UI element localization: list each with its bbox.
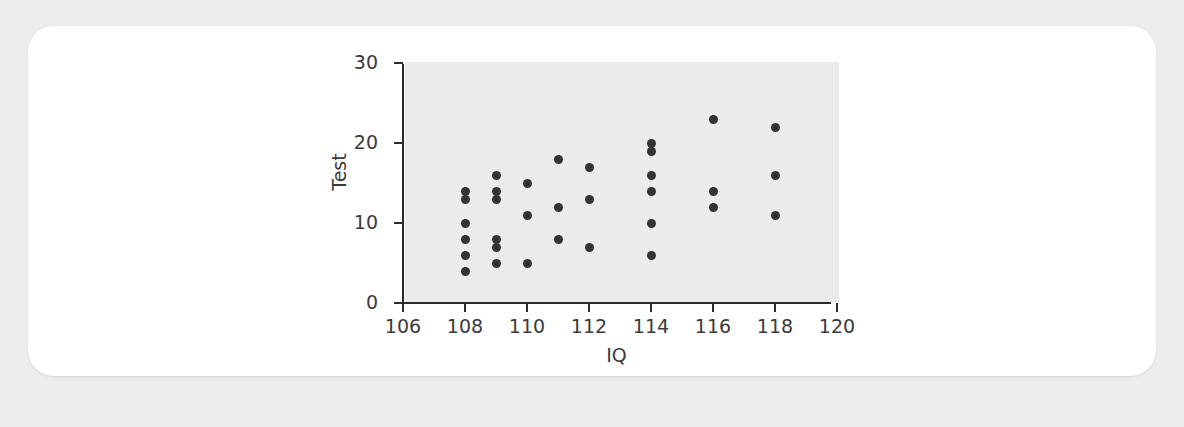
chart-card: 0102030 106108110112114116118120 Test IQ xyxy=(28,26,1156,376)
data-point xyxy=(492,243,501,252)
data-point xyxy=(461,251,470,260)
data-point xyxy=(461,235,470,244)
x-tick-label: 110 xyxy=(497,317,557,336)
page-background: 0102030 106108110112114116118120 Test IQ xyxy=(0,0,1184,427)
data-point xyxy=(554,203,563,212)
data-point xyxy=(492,259,501,268)
plot-panel xyxy=(405,62,839,302)
x-tick-mark xyxy=(650,303,652,312)
data-point xyxy=(523,259,532,268)
data-point xyxy=(709,203,718,212)
data-point xyxy=(585,195,594,204)
x-tick-label: 118 xyxy=(745,317,805,336)
data-point xyxy=(523,211,532,220)
y-tick-label: 10 xyxy=(338,213,378,232)
data-point xyxy=(585,243,594,252)
data-point xyxy=(523,179,532,188)
data-point xyxy=(647,147,656,156)
data-point xyxy=(647,251,656,260)
x-tick-label: 120 xyxy=(807,317,867,336)
x-tick-mark xyxy=(402,303,404,312)
y-tick-mark xyxy=(394,142,403,144)
data-point xyxy=(492,195,501,204)
x-tick-mark xyxy=(526,303,528,312)
x-axis-title: IQ xyxy=(402,344,831,366)
data-point xyxy=(771,171,780,180)
data-point xyxy=(554,235,563,244)
y-tick-label: 0 xyxy=(338,293,378,312)
y-tick-mark xyxy=(394,62,403,64)
x-tick-label: 114 xyxy=(621,317,681,336)
x-tick-mark xyxy=(712,303,714,312)
data-point xyxy=(461,267,470,276)
data-point xyxy=(647,187,656,196)
y-tick-label: 20 xyxy=(338,133,378,152)
x-tick-label: 116 xyxy=(683,317,743,336)
data-point xyxy=(709,115,718,124)
data-point xyxy=(554,155,563,164)
x-axis-line xyxy=(402,302,831,304)
data-point xyxy=(647,219,656,228)
data-point xyxy=(771,123,780,132)
y-axis-title: Test xyxy=(328,153,350,190)
y-tick-mark xyxy=(394,222,403,224)
x-tick-label: 108 xyxy=(435,317,495,336)
data-point xyxy=(709,187,718,196)
data-point xyxy=(461,195,470,204)
x-tick-mark xyxy=(588,303,590,312)
x-tick-mark xyxy=(774,303,776,312)
y-axis-line xyxy=(402,64,404,304)
data-point xyxy=(771,211,780,220)
data-point xyxy=(585,163,594,172)
data-point xyxy=(492,171,501,180)
data-point xyxy=(647,171,656,180)
x-tick-mark xyxy=(464,303,466,312)
x-tick-mark xyxy=(836,303,838,312)
x-tick-label: 106 xyxy=(373,317,433,336)
scatter-plot-figure: 0102030 106108110112114116118120 Test IQ xyxy=(28,26,1156,376)
y-tick-label: 30 xyxy=(338,53,378,72)
x-tick-label: 112 xyxy=(559,317,619,336)
data-point xyxy=(461,219,470,228)
